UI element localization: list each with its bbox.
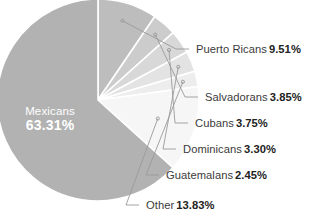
callout-dominicans-value: 3.30% (244, 143, 276, 155)
callout-salvadorans: Salvadorans3.85% (205, 92, 302, 103)
callout-guatemalans-name: Guatemalans (166, 169, 233, 181)
callout-salvadorans-name: Salvadorans (205, 91, 268, 103)
callout-dominicans-name: Dominicans (183, 143, 242, 155)
callout-puerto-ricans: Puerto Ricans9.51% (196, 44, 301, 55)
callout-cubans: Cubans3.75% (195, 118, 268, 129)
callout-puerto-ricans-value: 9.51% (269, 43, 301, 55)
callout-guatemalans: Guatemalans2.45% (166, 170, 267, 181)
callout-other: Other13.83% (146, 200, 214, 211)
pie-chart-svg (0, 0, 323, 220)
callout-other-value: 13.83% (176, 199, 214, 211)
callout-cubans-name: Cubans (195, 117, 234, 129)
callout-puerto-ricans-name: Puerto Ricans (196, 43, 267, 55)
callout-other-name: Other (146, 199, 174, 211)
pie-chart: Mexicans 63.31% Puerto Ricans9.51% Salva… (0, 0, 323, 220)
callout-guatemalans-value: 2.45% (235, 169, 267, 181)
callout-cubans-value: 3.75% (236, 117, 268, 129)
callout-dominicans: Dominicans3.30% (183, 144, 276, 155)
callout-salvadorans-value: 3.85% (270, 91, 302, 103)
